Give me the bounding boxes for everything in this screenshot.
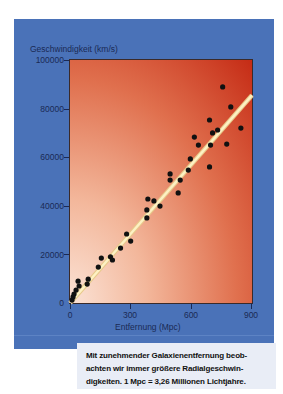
data-point <box>144 215 149 220</box>
data-point <box>86 277 91 282</box>
data-point <box>207 164 212 169</box>
data-point <box>124 231 129 236</box>
scatter-plot <box>70 60 252 303</box>
data-point <box>77 283 82 288</box>
data-point <box>238 125 243 130</box>
data-point <box>224 141 229 146</box>
data-point <box>110 257 115 262</box>
data-point <box>75 279 80 284</box>
data-point <box>168 177 173 182</box>
y-tick-label: 100000 <box>14 55 64 65</box>
caption-line: achten wir immer größere Radialgeschwin- <box>86 362 276 375</box>
data-point <box>85 281 90 286</box>
data-point <box>99 255 104 260</box>
caption-line: Mit zunehmender Galaxienentfernung beob- <box>86 349 276 362</box>
caption-line: digkeiten. 1 Mpc = 3,26 Millionen Lichtj… <box>86 375 276 388</box>
data-point <box>178 177 183 182</box>
y-tick-label: 60000 <box>14 152 64 162</box>
x-tick-mark <box>251 303 252 309</box>
data-point <box>157 203 162 208</box>
data-point <box>144 207 149 212</box>
data-point <box>151 198 156 203</box>
data-point <box>186 167 191 172</box>
data-point <box>73 288 78 293</box>
data-point <box>176 190 181 195</box>
x-tick-label: 0 <box>55 310 85 320</box>
y-axis-title: Geschwindigkeit (km/s) <box>30 44 118 54</box>
x-tick-label: 900 <box>236 310 266 320</box>
data-point <box>210 130 215 135</box>
y-tick-label: 80000 <box>14 104 64 114</box>
data-point <box>207 117 212 122</box>
caption: Mit zunehmender Galaxienentfernung beob-… <box>86 349 276 388</box>
x-tick-mark <box>191 303 192 309</box>
data-point <box>215 127 220 132</box>
data-point <box>188 156 193 161</box>
panel-divider <box>14 335 274 336</box>
data-point <box>196 142 201 147</box>
x-tick-mark <box>70 303 71 309</box>
y-tick-label: 40000 <box>14 201 64 211</box>
y-tick-label: 20000 <box>14 250 64 260</box>
y-tick-label: 0 <box>14 298 64 308</box>
data-point <box>145 196 150 201</box>
data-point <box>220 84 225 89</box>
x-tick-label: 600 <box>176 310 206 320</box>
data-point <box>118 245 123 250</box>
data-point <box>228 104 233 109</box>
data-point <box>128 238 133 243</box>
regression-line <box>70 95 252 303</box>
x-axis-title: Entfernung (Mpc) <box>115 322 181 332</box>
data-point <box>168 171 173 176</box>
data-point <box>208 142 213 147</box>
x-tick-label: 300 <box>115 310 145 320</box>
x-tick-mark <box>130 303 131 309</box>
data-points <box>69 84 243 302</box>
data-point <box>96 264 101 269</box>
data-point <box>192 134 197 139</box>
